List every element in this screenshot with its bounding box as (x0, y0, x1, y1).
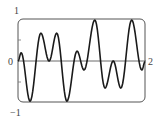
y-tick-label-top: 1 (14, 5, 19, 16)
y-tick-label-zero: 0 (8, 56, 13, 67)
data-curve (18, 20, 145, 101)
line-chart: 1 0 −1 2 (0, 0, 159, 127)
x-tick-label-right: 2 (148, 56, 153, 67)
y-tick-label-bottom: −1 (10, 107, 21, 118)
